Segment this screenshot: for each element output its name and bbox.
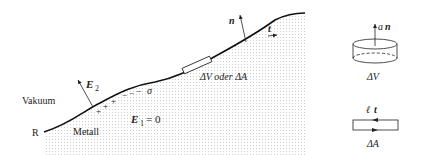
e2-subscript: 2 [95,84,99,93]
e1-label: E [130,113,138,125]
normal-arrow-icon [240,15,246,42]
e1-subscript: 1 [140,119,144,128]
vacuum-label: Vakuum [22,95,56,106]
minus-3: − [136,86,141,96]
minus-2: − [129,88,134,98]
pillbox-a-label: a [378,21,383,32]
normal-label: n [229,15,235,26]
e2-label: E [85,78,93,90]
minus-1: − [122,90,127,100]
element-label: ΔV oder ΔA [199,71,248,82]
e1-equals: = 0 [146,113,161,125]
loop-inset: ℓ t ΔA [353,104,398,149]
boundary-diagram: Vakuum Metall R E 2 E 1 = 0 + + + − − − … [0,0,427,155]
boundary-label: R [32,127,39,138]
plus-3: + [111,96,116,106]
pillbox-caption: ΔV [366,71,381,82]
pillbox-n-label: n [385,21,391,32]
loop-t-label: t [374,104,378,115]
pillbox-inset: a n ΔV [353,21,397,82]
plus-1: + [96,106,101,116]
loop-caption: ΔA [366,138,380,149]
metal-label: Metall [73,126,99,137]
plus-2: + [103,101,108,111]
loop-l-label: ℓ [366,104,370,115]
